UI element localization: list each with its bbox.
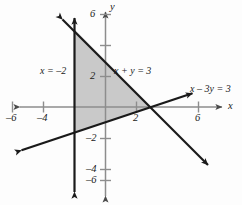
x-tick-label-2: 2 <box>133 113 138 124</box>
equation-label-vertical-line: x = –2 <box>40 66 66 76</box>
y-tick-label-minus6: –6 <box>86 175 97 186</box>
x-axis-title: x <box>228 101 233 112</box>
x-tick-label-6: 6 <box>195 113 200 124</box>
graph-figure: x y –6 –4 2 6 6 2 –2 –4 –6 x = –2 x + y … <box>0 0 242 205</box>
y-tick-label-2: 2 <box>90 71 95 82</box>
equation-label-descending-line: x + y = 3 <box>114 66 151 76</box>
x-tick-label-minus4: –4 <box>37 113 48 124</box>
y-axis-title: y <box>110 2 115 13</box>
x-tick-label-minus6: –6 <box>6 113 17 124</box>
y-tick-label-6: 6 <box>90 9 95 20</box>
equation-label-shallow-line: x – 3y = 3 <box>190 84 231 94</box>
coordinate-plane <box>0 0 242 205</box>
y-tick-label-minus4: –4 <box>86 164 97 175</box>
shaded-feasible-region <box>75 30 152 134</box>
y-tick-label-minus2: –2 <box>86 133 97 144</box>
